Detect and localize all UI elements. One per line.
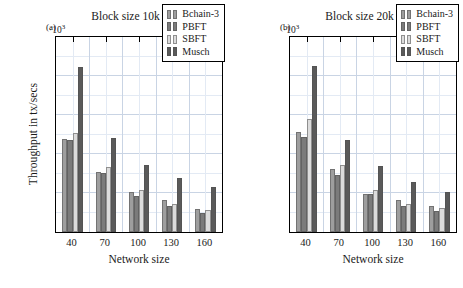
panel-b-legend: Bchain-3PBFTSBFTMusch <box>396 4 459 62</box>
y-axis-tick <box>55 37 56 38</box>
legend-color-swatch-icon <box>401 10 406 19</box>
panel-a-plot-area: 012345 <box>55 36 223 233</box>
x-axis-tick <box>406 232 407 233</box>
bar-musch-160 <box>445 192 450 232</box>
gridline-vertical <box>89 37 90 232</box>
legend-item-sbft: SBFT <box>401 33 453 46</box>
legend-item-bchain-3: Bchain-3 <box>167 8 219 21</box>
legend-item-label: Bchain-3 <box>182 9 219 19</box>
legend-item-bchain-3: Bchain-3 <box>401 8 453 21</box>
bar-musch-70 <box>345 140 350 232</box>
panel-a-x-axis-label: Network size <box>55 253 223 265</box>
gridline-vertical <box>439 37 440 232</box>
y-axis-tick <box>289 37 290 38</box>
legend-color-swatch-icon <box>173 10 178 19</box>
legend-color-swatch-icon <box>167 47 172 56</box>
x-axis-tick <box>139 232 140 233</box>
x-axis-tick <box>439 232 440 233</box>
chart-panel-a: Block size 10k ·103 (a) 012345 Network s… <box>22 0 229 288</box>
figure-container: Throughput in tx/secs Block size 10k ·10… <box>0 0 463 288</box>
legend-swatch-pair <box>401 35 412 44</box>
x-axis-tick <box>307 232 308 233</box>
panel-b-subplot-label: (b) <box>280 22 291 32</box>
gridline-vertical <box>189 37 190 232</box>
x-axis-tick-label: 130 <box>163 237 179 248</box>
x-axis-tick-top <box>73 37 74 42</box>
bar-musch-70 <box>111 138 116 232</box>
gridline-vertical <box>122 37 123 232</box>
multiplier-exponent: 3 <box>62 23 66 31</box>
legend-item-musch: Musch <box>401 46 453 59</box>
panel-b-x-axis-label: Network size <box>289 253 457 265</box>
legend-item-label: Musch <box>182 47 209 57</box>
legend-color-swatch-icon <box>401 35 406 44</box>
y-axis-tick <box>289 115 290 116</box>
legend-swatch-pair <box>167 22 178 31</box>
x-axis-tick-top <box>307 37 308 42</box>
y-axis-tick <box>55 76 56 77</box>
x-axis-tick-top <box>139 37 140 42</box>
gridline-vertical <box>156 37 157 232</box>
legend-color-swatch-icon <box>173 22 178 31</box>
gridline-vertical <box>356 37 357 232</box>
legend-item-label: PBFT <box>416 22 440 32</box>
x-axis-tick-label: 100 <box>364 237 380 248</box>
legend-color-swatch-icon <box>173 35 178 44</box>
multiplier-exponent: 3 <box>296 23 300 31</box>
bar-musch-40 <box>312 66 317 232</box>
x-axis-tick <box>106 232 107 233</box>
bar-musch-100 <box>378 166 383 232</box>
chart-panel-b: Block size 20k ·103 (b) 012345 Network s… <box>256 0 463 288</box>
x-axis-tick-label: 130 <box>397 237 413 248</box>
x-axis-tick <box>373 232 374 233</box>
legend-item-label: Musch <box>416 47 443 57</box>
legend-swatch-pair <box>401 10 412 19</box>
bar-musch-130 <box>411 182 416 232</box>
bar-musch-160 <box>211 187 216 232</box>
x-axis-tick <box>205 232 206 233</box>
panel-a-subplot-label: (a) <box>46 22 56 32</box>
gridline-vertical <box>205 37 206 232</box>
gridline-vertical <box>323 37 324 232</box>
x-axis-tick-label: 40 <box>66 237 77 248</box>
x-axis-tick-label: 40 <box>300 237 311 248</box>
legend-color-swatch-icon <box>407 35 412 44</box>
legend-color-swatch-icon <box>407 10 412 19</box>
y-axis-tick <box>289 76 290 77</box>
legend-item-musch: Musch <box>167 46 219 59</box>
y-axis-tick <box>289 154 290 155</box>
legend-color-swatch-icon <box>401 47 406 56</box>
x-axis-tick-top <box>373 37 374 42</box>
x-axis-tick-label: 70 <box>100 237 111 248</box>
legend-item-pbft: PBFT <box>167 21 219 34</box>
y-axis-tick <box>55 115 56 116</box>
legend-swatch-pair <box>167 35 178 44</box>
legend-item-label: PBFT <box>182 22 206 32</box>
bar-musch-100 <box>144 165 149 232</box>
x-axis-tick-label: 160 <box>431 237 447 248</box>
x-axis-tick <box>172 232 173 233</box>
y-axis-tick <box>55 232 56 233</box>
gridline-vertical <box>423 37 424 232</box>
panel-a-legend: Bchain-3PBFTSBFTMusch <box>162 4 225 62</box>
legend-item-label: SBFT <box>182 34 206 44</box>
y-axis-tick <box>55 154 56 155</box>
legend-swatch-pair <box>401 22 412 31</box>
legend-swatch-pair <box>167 10 178 19</box>
gridline-vertical <box>406 37 407 232</box>
bar-musch-40 <box>78 67 83 232</box>
legend-color-swatch-icon <box>401 22 406 31</box>
x-axis-tick-label: 100 <box>130 237 146 248</box>
legend-swatch-pair <box>401 47 412 56</box>
legend-item-pbft: PBFT <box>401 21 453 34</box>
legend-swatch-pair <box>167 47 178 56</box>
gridline-vertical <box>390 37 391 232</box>
y-axis-tick <box>289 193 290 194</box>
legend-color-swatch-icon <box>167 10 172 19</box>
x-axis-tick-top <box>340 37 341 42</box>
legend-color-swatch-icon <box>407 22 412 31</box>
y-axis-tick <box>55 193 56 194</box>
x-axis-tick-top <box>106 37 107 42</box>
legend-item-sbft: SBFT <box>167 33 219 46</box>
legend-color-swatch-icon <box>167 35 172 44</box>
